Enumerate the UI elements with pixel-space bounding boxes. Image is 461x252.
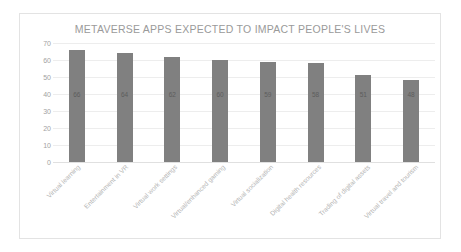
gridline (53, 162, 435, 163)
bar-slot: 58 (292, 43, 340, 162)
bar-series: 6664626059585148 (53, 43, 435, 162)
x-axis-label: Entertainment in VR (84, 164, 130, 210)
plot-area: 706050403020100 6664626059585148 (37, 43, 437, 162)
bar-slot: 66 (53, 43, 101, 162)
bar-slot: 51 (340, 43, 388, 162)
bar-value-label: 66 (73, 92, 80, 99)
x-axis-label: Virtual work settings (132, 164, 178, 210)
chart-title: METAVERSE APPS EXPECTED TO IMPACT PEOPLE… (20, 23, 440, 35)
y-axis-tick: 60 (37, 57, 51, 64)
y-axis-tick: 30 (37, 108, 51, 115)
bar-value-label: 59 (264, 92, 271, 99)
bar[interactable] (69, 50, 85, 162)
bar[interactable] (117, 53, 133, 162)
bar-value-label: 62 (169, 92, 176, 99)
chart-container: METAVERSE APPS EXPECTED TO IMPACT PEOPLE… (19, 13, 441, 239)
y-axis-tick: 70 (37, 40, 51, 47)
bar-value-label: 60 (217, 92, 224, 99)
bar-value-label: 51 (360, 92, 367, 99)
bar-slot: 60 (196, 43, 244, 162)
bar[interactable] (164, 57, 180, 162)
bar[interactable] (260, 62, 276, 162)
x-axis-label: Digital health resources (270, 164, 323, 217)
bar-slot: 64 (101, 43, 149, 162)
x-axis-label: Virtual/enhanced gaming (170, 164, 226, 220)
y-axis-tick: 20 (37, 125, 51, 132)
bar-slot: 48 (387, 43, 435, 162)
y-axis-tick: 50 (37, 74, 51, 81)
y-axis-tick: 0 (37, 159, 51, 166)
bar-slot: 62 (149, 43, 197, 162)
x-axis-label: Trading of digital assets (318, 164, 372, 218)
x-axis-label: Virtual travel and tourism (363, 164, 419, 220)
x-axis-label: Virtual socialization (230, 164, 274, 208)
bar-value-label: 58 (312, 92, 319, 99)
bar-slot: 59 (244, 43, 292, 162)
y-axis-tick: 10 (37, 142, 51, 149)
bar-value-label: 48 (408, 92, 415, 99)
x-axis-label: Virtual learning (46, 164, 82, 200)
bar-value-label: 64 (121, 92, 128, 99)
y-axis-tick: 40 (37, 91, 51, 98)
bar[interactable] (308, 63, 324, 162)
x-axis-category-labels: Virtual learningEntertainment in VRVirtu… (53, 164, 439, 238)
bar[interactable] (355, 75, 371, 162)
bar[interactable] (212, 60, 228, 162)
